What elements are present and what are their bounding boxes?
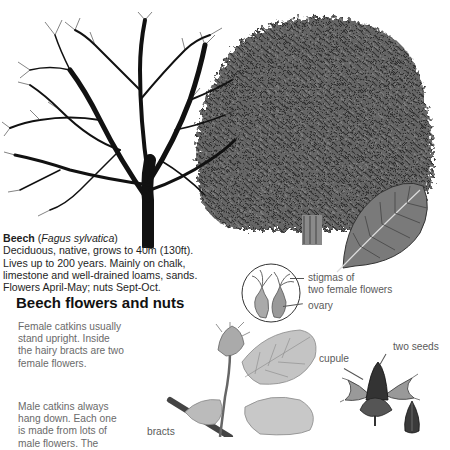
beech-seed-illustration [401, 399, 423, 435]
female-catkins-text: Female catkins usually stand upright. In… [18, 321, 124, 370]
species-caption: Beech (Fagus sylvatica) Deciduous, nativ… [3, 232, 197, 293]
description-line: Lives up to 200 years. Mainly on chalk, [3, 257, 197, 269]
stigmas-label: stigmas of two female flowers [308, 272, 392, 296]
label-line: two female flowers [308, 284, 392, 296]
cupule-label: cupule [319, 353, 349, 364]
paragraph-line: Male catkins always [18, 401, 117, 413]
description-line: Deciduous, native, grows to 40m (130ft). [3, 244, 197, 256]
beech-leaf-illustration [335, 178, 435, 273]
species-title: Beech (Fagus sylvatica) [3, 232, 197, 244]
paragraph-line: stand upright. Inside [18, 333, 124, 345]
two-seeds-label: two seeds [393, 341, 439, 352]
paragraph-line: is made from lots of [18, 425, 117, 437]
common-name: Beech [3, 232, 35, 244]
paragraph-line: male flowers. The [18, 438, 117, 450]
female-flower-detail-illustration [240, 262, 302, 324]
bare-tree-illustration [0, 10, 240, 248]
latin-close-paren: ) [114, 232, 118, 244]
description-line: Flowers April-May; nuts Sept-Oct. [3, 281, 197, 293]
stigmas-leader-line [290, 278, 304, 279]
male-catkins-text: Male catkins always hang down. Each one … [18, 401, 117, 450]
ovary-label: ovary [308, 300, 333, 311]
label-line: stigmas of [308, 272, 392, 284]
paragraph-line: female flowers. [18, 358, 124, 370]
latin-name: Fagus sylvatica [41, 232, 114, 244]
paragraph-line: Female catkins usually [18, 321, 124, 333]
description-line: limestone and well-drained loams, sands. [3, 269, 197, 281]
paragraph-line: hang down. Each one [18, 413, 117, 425]
paragraph-line: the hairy bracts are two [18, 345, 124, 357]
bracts-label: bracts [147, 426, 175, 437]
flowering-twig-illustration [160, 322, 320, 437]
section-heading: Beech flowers and nuts [16, 294, 184, 311]
